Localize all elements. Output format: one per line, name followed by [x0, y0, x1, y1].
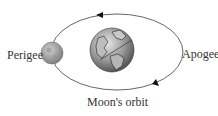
- perigee-label: Perigee: [7, 49, 43, 61]
- moon-icon: [41, 42, 63, 64]
- orbit-label: Moon's orbit: [87, 96, 148, 108]
- earth-icon: [90, 28, 134, 72]
- orbit-arrow-top-icon: [96, 12, 103, 18]
- apogee-label: Apogee: [182, 48, 218, 60]
- orbit-arrow-bottom-icon: [152, 79, 159, 86]
